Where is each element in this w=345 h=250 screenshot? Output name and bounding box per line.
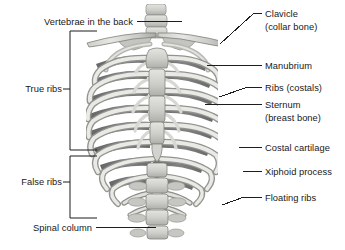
label-vertebrae-in-the-back: Vertebrae in the back: [0, 16, 133, 29]
label-sternum-line2: (breast bone): [265, 112, 321, 125]
rib-cage-diagram: Vertebrae in the back True ribs False ri…: [0, 0, 345, 250]
label-xiphoid-process: Xiphoid process: [265, 166, 332, 179]
label-clavicle: Clavicle (collar bone): [265, 8, 317, 33]
label-clavicle-line1: Clavicle: [265, 8, 317, 21]
label-xiphoid-process-line1: Xiphoid process: [265, 166, 332, 179]
label-manubrium-line1: Manubrium: [265, 60, 312, 73]
label-sternum-line1: Sternum: [265, 99, 321, 112]
label-true-ribs: True ribs: [0, 83, 62, 96]
label-ribs-costals-line1: Ribs (costals): [265, 82, 322, 95]
label-floating-ribs: Floating ribs: [265, 192, 316, 205]
label-ribs-costals: Ribs (costals): [265, 82, 322, 95]
rib-cage-illustration: [0, 0, 345, 250]
label-false-ribs: False ribs: [0, 176, 62, 189]
label-manubrium: Manubrium: [265, 60, 312, 73]
label-floating-ribs-line1: Floating ribs: [265, 192, 316, 205]
label-sternum: Sternum (breast bone): [265, 99, 321, 124]
lumbar-vertebrae: [128, 163, 186, 239]
label-clavicle-line2: (collar bone): [265, 21, 317, 34]
label-spinal-column: Spinal column: [0, 222, 92, 235]
label-costal-cartilage-line1: Costal cartilage: [265, 142, 330, 155]
label-costal-cartilage: Costal cartilage: [265, 142, 330, 155]
